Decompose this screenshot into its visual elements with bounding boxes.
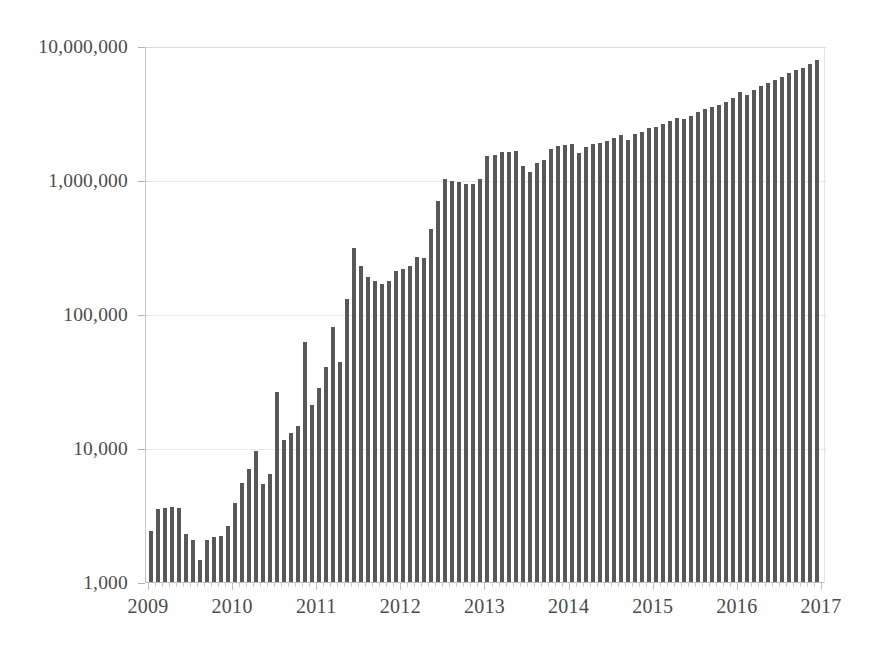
x-axis-minor-tick — [155, 583, 156, 587]
bar — [563, 145, 567, 582]
y-axis-tick — [138, 449, 145, 450]
x-axis-minor-tick — [681, 583, 682, 587]
bar — [542, 160, 546, 582]
bar — [647, 128, 651, 582]
x-axis-minor-tick — [246, 583, 247, 587]
bar — [261, 484, 265, 582]
bar — [464, 184, 468, 582]
bar — [170, 507, 174, 582]
x-axis-tick-label: 2014 — [548, 595, 589, 618]
x-axis-minor-tick — [758, 583, 759, 587]
x-axis-minor-tick — [534, 583, 535, 587]
x-axis-minor-tick — [513, 583, 514, 587]
bar — [156, 509, 160, 582]
bar — [640, 132, 644, 582]
bar — [436, 201, 440, 582]
bar — [471, 184, 475, 582]
bar — [766, 83, 770, 582]
x-axis-minor-tick — [814, 583, 815, 587]
x-axis-tick — [316, 583, 317, 590]
y-axis-tick — [138, 47, 145, 48]
bar — [254, 451, 258, 582]
bar — [345, 299, 349, 582]
y-axis-tick-label: 1,000 — [0, 572, 128, 594]
bar — [429, 229, 433, 582]
bar — [598, 143, 602, 582]
x-axis-minor-tick — [765, 583, 766, 587]
x-axis-minor-tick — [541, 583, 542, 587]
bar — [556, 146, 560, 582]
x-axis-minor-tick — [442, 583, 443, 587]
x-axis-minor-tick — [807, 583, 808, 587]
bar — [191, 540, 195, 582]
bar — [149, 531, 153, 582]
x-axis-minor-tick — [407, 583, 408, 587]
bar — [324, 367, 328, 582]
x-axis-minor-tick — [744, 583, 745, 587]
y-axis-tick — [138, 315, 145, 316]
bar — [485, 156, 489, 582]
x-axis-minor-tick — [428, 583, 429, 587]
x-axis-minor-tick — [779, 583, 780, 587]
chart-container: 1,00010,000100,0001,000,00010,000,000 20… — [0, 0, 885, 669]
y-axis-tick-label: 10,000,000 — [0, 36, 128, 58]
x-axis-minor-tick — [351, 583, 352, 587]
bar — [633, 134, 637, 582]
bar — [752, 90, 756, 582]
bar — [731, 98, 735, 582]
bar — [612, 138, 616, 582]
x-axis-tick — [821, 583, 822, 590]
bar — [415, 257, 419, 582]
bar — [605, 141, 609, 582]
x-axis-minor-tick — [772, 583, 773, 587]
x-axis-minor-tick — [323, 583, 324, 587]
x-axis-minor-tick — [800, 583, 801, 587]
bar — [493, 155, 497, 583]
bar — [282, 440, 286, 582]
bar — [233, 503, 237, 582]
x-axis-minor-tick — [492, 583, 493, 587]
x-axis-tick-label: 2017 — [800, 595, 841, 618]
x-axis-minor-tick — [463, 583, 464, 587]
x-axis-minor-tick — [253, 583, 254, 587]
bar — [240, 483, 244, 582]
bar — [310, 405, 314, 582]
x-axis-minor-tick — [590, 583, 591, 587]
x-axis-tick-label: 2016 — [716, 595, 757, 618]
x-axis-minor-tick — [716, 583, 717, 587]
bar — [422, 258, 426, 582]
x-axis-minor-tick — [295, 583, 296, 587]
bar — [177, 508, 181, 582]
bar — [808, 64, 812, 582]
x-axis-minor-tick — [702, 583, 703, 587]
bar — [205, 540, 209, 582]
x-axis-minor-tick — [190, 583, 191, 587]
x-axis-minor-tick — [225, 583, 226, 587]
bar — [198, 560, 202, 582]
x-axis-minor-tick — [527, 583, 528, 587]
x-axis-minor-tick — [274, 583, 275, 587]
bar — [528, 172, 532, 582]
bar — [226, 526, 230, 582]
x-axis-tick-label: 2013 — [464, 595, 505, 618]
plot-area — [145, 47, 825, 583]
x-axis-minor-tick — [709, 583, 710, 587]
bar — [577, 153, 581, 582]
bar — [366, 277, 370, 582]
x-axis-minor-tick — [667, 583, 668, 587]
x-axis-minor-tick — [162, 583, 163, 587]
x-axis-tick-label: 2010 — [212, 595, 253, 618]
x-axis-minor-tick — [379, 583, 380, 587]
x-axis-minor-tick — [695, 583, 696, 587]
x-axis-minor-tick — [506, 583, 507, 587]
bar — [373, 281, 377, 582]
bar — [549, 149, 553, 582]
bar — [668, 121, 672, 582]
x-axis-minor-tick — [365, 583, 366, 587]
bar — [710, 107, 714, 582]
x-axis-minor-tick — [421, 583, 422, 587]
x-axis-minor-tick — [576, 583, 577, 587]
x-axis-minor-tick — [470, 583, 471, 587]
bar — [570, 144, 574, 582]
x-axis-minor-tick — [302, 583, 303, 587]
